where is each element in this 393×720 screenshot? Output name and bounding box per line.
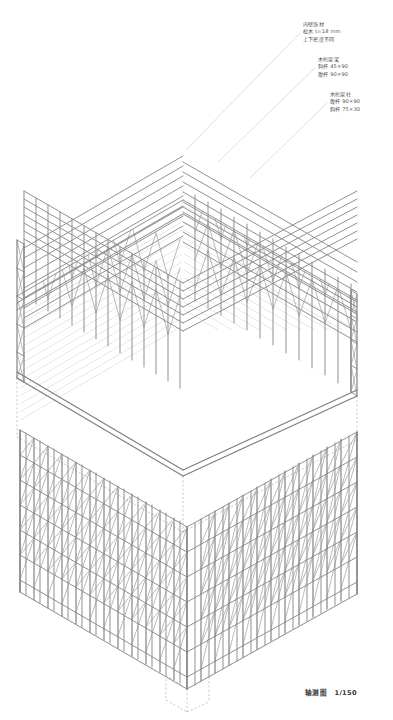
annotation-line: 木桁架梁 (318, 56, 348, 63)
annotation-line: 斜杆 45×90 (318, 63, 348, 70)
caption-title: 轴测图 (305, 689, 327, 697)
annotation-line: 木桁架柱 (330, 91, 360, 98)
annotation-line: 腹杆 90×90 (330, 98, 360, 105)
annotation-leader-lines (186, 33, 327, 178)
roof-truss-assembly (17, 156, 357, 476)
annotation-timber-truss-column: 木桁架柱 腹杆 90×90 斜杆 75×30 (330, 91, 360, 113)
roof-truss-grid-left (17, 156, 183, 388)
drawing-caption: 轴测图 1/150 (305, 687, 357, 697)
wall-left-face (20, 430, 187, 689)
drawing-sheet: .m { stroke:#8a8a8a; stroke-width:.95; f… (0, 0, 393, 720)
annotation-line: 斜杆 75×30 (330, 106, 360, 113)
roof-edge-truss-left (17, 240, 24, 382)
annotation-line: 松木 t=18 mm (303, 28, 341, 35)
roof-truss-grid-right (183, 162, 357, 390)
annotation-line: 内壁饰材 (303, 21, 341, 28)
lattice-column-wall-assembly (20, 430, 357, 689)
caption-scale: 1/150 (335, 689, 357, 697)
annotation-interior-finish: 内壁饰材 松木 t=18 mm 上下密度不同 (303, 21, 341, 43)
annotation-line: 腹杆 90×90 (318, 71, 348, 78)
roof-edge-truss-right (351, 290, 357, 396)
wall-right-face (187, 432, 357, 689)
annotation-line: 上下密度不同 (303, 36, 341, 43)
annotation-timber-truss-beam: 木桁架梁 斜杆 45×90 腹杆 90×90 (318, 56, 348, 78)
